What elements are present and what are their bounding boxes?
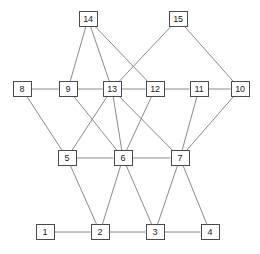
graph-node-label: 4 bbox=[208, 227, 213, 237]
graph-node-14[interactable]: 14 bbox=[79, 11, 98, 27]
graph-node-6[interactable]: 6 bbox=[114, 150, 133, 166]
graph-node-label: 8 bbox=[20, 84, 25, 94]
graph-node-5[interactable]: 5 bbox=[58, 150, 77, 166]
graph-node-4[interactable]: 4 bbox=[201, 224, 220, 240]
node-layer: 123456789131211101415 bbox=[0, 0, 260, 254]
graph-node-12[interactable]: 12 bbox=[146, 81, 165, 97]
graph-node-13[interactable]: 13 bbox=[103, 81, 122, 97]
graph-node-15[interactable]: 15 bbox=[169, 11, 188, 27]
graph-node-label: 12 bbox=[150, 84, 160, 94]
graph-node-3[interactable]: 3 bbox=[146, 224, 165, 240]
graph-node-label: 3 bbox=[153, 227, 158, 237]
graph-node-10[interactable]: 10 bbox=[231, 81, 250, 97]
graph-node-9[interactable]: 9 bbox=[59, 81, 78, 97]
graph-node-label: 5 bbox=[65, 153, 70, 163]
graph-diagram: 123456789131211101415 bbox=[0, 0, 260, 254]
graph-node-label: 13 bbox=[107, 84, 117, 94]
graph-node-label: 7 bbox=[178, 153, 183, 163]
graph-node-label: 11 bbox=[195, 84, 204, 94]
graph-node-label: 15 bbox=[173, 14, 183, 24]
graph-node-11[interactable]: 11 bbox=[190, 81, 209, 97]
graph-node-2[interactable]: 2 bbox=[91, 224, 110, 240]
graph-node-label: 9 bbox=[66, 84, 71, 94]
graph-node-7[interactable]: 7 bbox=[171, 150, 190, 166]
graph-node-label: 1 bbox=[43, 227, 48, 237]
graph-node-1[interactable]: 1 bbox=[36, 224, 55, 240]
graph-node-8[interactable]: 8 bbox=[13, 81, 32, 97]
graph-node-label: 6 bbox=[121, 153, 126, 163]
graph-node-label: 14 bbox=[83, 14, 93, 24]
graph-node-label: 2 bbox=[98, 227, 103, 237]
graph-node-label: 10 bbox=[235, 84, 245, 94]
